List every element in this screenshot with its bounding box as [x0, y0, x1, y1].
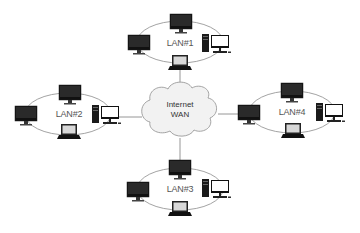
internet-label: Internet [166, 100, 193, 110]
lan2-desktop-right-icon [92, 105, 121, 124]
internet-wan-label: Internet WAN [166, 100, 193, 120]
lan4-label: LAN#4 [279, 107, 306, 117]
lan3-monitor-top-icon [169, 160, 191, 180]
lan3-monitor-left-icon [127, 182, 149, 202]
lan1-monitor-left-icon [128, 35, 150, 55]
lan1-desktop-right-icon [202, 34, 231, 53]
lan3-label: LAN#3 [167, 184, 194, 194]
wan-label: WAN [166, 110, 193, 120]
lan2-monitor-left-icon [15, 106, 37, 126]
lan4-monitor-left-icon [238, 105, 260, 125]
lan2-label: LAN#2 [56, 109, 83, 119]
lan2-monitor-top-icon [59, 85, 81, 105]
lan1-label: LAN#1 [167, 38, 194, 48]
lan4-laptop-bottom-icon [281, 123, 305, 138]
lan4-monitor-top-icon [281, 83, 303, 103]
lan2-laptop-bottom-icon [57, 124, 81, 139]
lan4-desktop-right-icon [316, 103, 345, 122]
lan3-desktop-right-icon [202, 179, 231, 198]
lan1-monitor-top-icon [170, 14, 192, 34]
lan3-laptop-bottom-icon [168, 201, 192, 216]
